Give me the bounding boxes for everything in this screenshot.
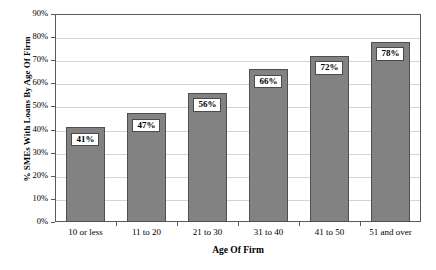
y-axis-tick-label: 60% — [12, 78, 48, 87]
bar — [371, 42, 409, 222]
bar-value-label: 47% — [132, 119, 160, 132]
bar-value-label: 78% — [376, 47, 404, 60]
x-axis-title: Age Of Firm — [55, 245, 421, 255]
x-axis-tick-label: 11 to 20 — [116, 227, 177, 237]
bar — [310, 56, 348, 222]
x-axis-tick-label: 31 to 40 — [238, 227, 299, 237]
bar-chart: % SMEs With Loans By Age Of Firm 0%10%20… — [0, 0, 436, 270]
y-axis-tick-mark — [51, 222, 55, 223]
x-axis-tick-label: 41 to 50 — [299, 227, 360, 237]
x-axis-tick-label: 51 and over — [360, 227, 421, 237]
y-axis-tick-label: 90% — [12, 9, 48, 18]
bar-group: 78% — [371, 14, 409, 222]
bar — [188, 93, 226, 222]
x-axis-tick-mark — [299, 222, 300, 226]
y-axis-tick-label: 70% — [12, 55, 48, 64]
x-axis-tick-label: 21 to 30 — [177, 227, 238, 237]
y-axis-tick-label: 10% — [12, 194, 48, 203]
x-axis-tick-mark — [238, 222, 239, 226]
bar-group: 56% — [188, 14, 226, 222]
y-axis-tick-label: 20% — [12, 171, 48, 180]
x-axis-tick-mark — [177, 222, 178, 226]
bar-group: 72% — [310, 14, 348, 222]
y-axis-tick-label: 50% — [12, 101, 48, 110]
x-axis-tick-label: 10 or less — [55, 227, 116, 237]
bar-group: 66% — [249, 14, 287, 222]
bar-group: 41% — [66, 14, 104, 222]
x-axis-tick-mark — [360, 222, 361, 226]
bar-value-label: 72% — [315, 61, 343, 74]
bar-value-label: 66% — [254, 75, 282, 88]
bar-group: 47% — [127, 14, 165, 222]
y-axis-tick-label: 80% — [12, 32, 48, 41]
y-axis-tick-label: 0% — [12, 217, 48, 226]
bars-layer: 41%47%56%66%72%78% — [55, 14, 421, 222]
y-axis-tick-label: 40% — [12, 125, 48, 134]
bar-value-label: 56% — [193, 98, 221, 111]
x-axis-tick-mark — [116, 222, 117, 226]
bar-value-label: 41% — [71, 133, 99, 146]
bar — [249, 69, 287, 222]
y-axis-tick-label: 30% — [12, 148, 48, 157]
